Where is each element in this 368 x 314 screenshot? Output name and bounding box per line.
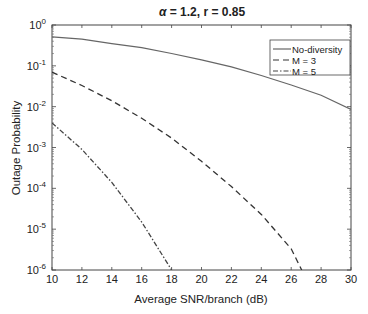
x-tick-label: 22 [225,273,237,285]
legend-label: M = 3 [292,55,316,66]
x-tick-label: 26 [285,273,297,285]
y-tick-label: 10-2 [27,99,47,113]
y-tick-label: 10-6 [27,262,47,276]
x-tick-label: 12 [76,273,88,285]
x-tick-label: 10 [46,273,58,285]
y-tick-label: 100 [29,17,46,31]
x-tick-label: 30 [345,273,357,285]
legend: No-diversityM = 3M = 5 [270,40,350,77]
y-tick-label: 10-5 [27,221,47,235]
outage-probability-chart: α = 1.2, r = 0.85 1012141618202224262830… [0,0,368,314]
y-tick-label: 10-1 [27,58,47,72]
legend-label: M = 5 [292,66,316,77]
chart-title: α = 1.2, r = 0.85 [159,5,246,19]
y-axis-label: Outage Probability [10,100,22,195]
x-tick-label: 14 [106,273,118,285]
y-tick-label: 10-3 [27,140,47,154]
x-tick-label: 16 [136,273,148,285]
x-tick-label: 18 [165,273,177,285]
x-tick-label: 20 [195,273,207,285]
x-tick-label: 24 [255,273,267,285]
title-rest: = 1.2, r = 0.85 [166,5,245,19]
y-tick-label: 10-4 [27,180,47,194]
x-axis-label: Average SNR/branch (dB) [134,293,268,305]
x-tick-label: 28 [315,273,327,285]
legend-label: No-diversity [292,44,342,55]
